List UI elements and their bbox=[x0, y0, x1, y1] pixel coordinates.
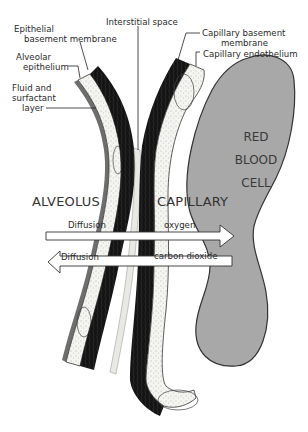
red-blood-cell-label: RED BLOOD CELL bbox=[226, 126, 286, 195]
label-line: CELL bbox=[226, 172, 286, 195]
red-blood-cell-shape bbox=[187, 55, 295, 366]
label-line: BLOOD bbox=[226, 149, 286, 172]
fluid-surfactant-layer-label: Fluid and surfactant layer bbox=[12, 83, 56, 113]
label-line: surfactant bbox=[12, 93, 56, 103]
oxygen-label: oxygen bbox=[164, 220, 195, 230]
alveolus-label: ALVEOLUS bbox=[32, 194, 100, 209]
capillary-basement-membrane-label: Capillary basement membrane bbox=[202, 28, 285, 48]
label-line: Alveolar bbox=[16, 52, 69, 62]
co2-diffusion-label: Diffusion bbox=[61, 252, 99, 262]
interstitial-space-label: Interstitial space bbox=[106, 17, 178, 27]
label-line: epithelium bbox=[16, 62, 69, 72]
label-line: Fluid and bbox=[12, 83, 56, 93]
epithelial-basement-membrane-label: Epithelial basement membrane bbox=[14, 24, 117, 44]
carbon-dioxide-label: carbon dioxide bbox=[154, 251, 217, 261]
alveolar-epithelium-label: Alveolar epithelium bbox=[16, 52, 69, 72]
label-line: RED bbox=[226, 126, 286, 149]
label-line: membrane bbox=[202, 38, 285, 48]
label-line: layer bbox=[12, 103, 56, 113]
oxygen-diffusion-label: Diffusion bbox=[68, 220, 106, 230]
capillary-endothelium-label: Capillary endothelium bbox=[203, 49, 298, 59]
capillary-label: CAPILLARY bbox=[157, 194, 228, 209]
label-line: basement membrane bbox=[14, 34, 117, 44]
label-line: Capillary basement bbox=[202, 28, 285, 38]
label-line: Epithelial bbox=[14, 24, 117, 34]
